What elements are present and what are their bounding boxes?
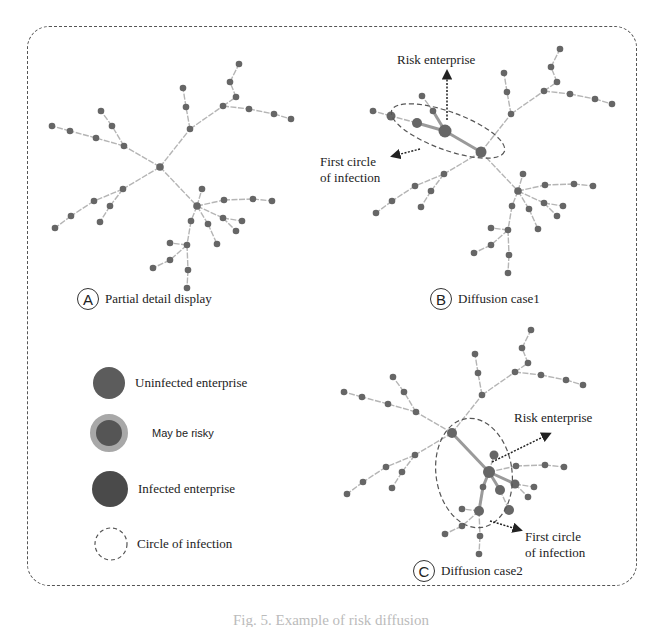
- enterprise-node: [501, 70, 508, 77]
- enterprise-node: [93, 135, 100, 142]
- edge: [508, 206, 512, 230]
- enterprise-node: [188, 218, 195, 225]
- enterprise-node: [359, 394, 366, 401]
- enterprise-node: [541, 200, 548, 207]
- enterprise-node: [476, 551, 483, 558]
- enterprise-node: [525, 360, 532, 367]
- legend-item-circle-of-infection: Circle of infection: [95, 528, 232, 560]
- legend-label-uninfected: Uninfected enterprise: [135, 375, 247, 391]
- panel-letter-c-icon: C: [413, 560, 435, 582]
- enterprise-node: [205, 221, 212, 228]
- risk-arrow-c: [492, 434, 549, 462]
- enterprise-node: [483, 466, 495, 478]
- enterprise-node: [199, 186, 206, 193]
- legend-item-uninfected: Uninfected enterprise: [93, 367, 247, 399]
- annotation-risk-enterprise-c: Risk enterprise: [514, 410, 592, 426]
- annotation-first-circle-b-line2: of infection: [320, 170, 380, 186]
- enterprise-node: [548, 64, 555, 71]
- enterprise-node: [479, 392, 486, 399]
- enterprise-node: [490, 451, 499, 460]
- enterprise-node: [220, 103, 227, 110]
- enterprise-node: [520, 171, 527, 178]
- enterprise-node: [541, 88, 548, 95]
- legend-label-infected: Infected enterprise: [138, 481, 235, 497]
- enterprise-node: [542, 182, 549, 189]
- enterprise-node: [269, 198, 276, 205]
- edge: [71, 201, 94, 216]
- edge: [124, 146, 160, 167]
- edge: [415, 433, 452, 455]
- edge: [190, 106, 223, 129]
- enterprise-node: [180, 85, 187, 92]
- circle-arrow-c: [490, 521, 520, 530]
- enterprise-node: [580, 382, 587, 389]
- legend-label-circle-of-infection: Circle of infection: [137, 536, 232, 552]
- edge: [518, 191, 544, 203]
- enterprise-node: [52, 225, 59, 232]
- enterprise-node: [184, 242, 191, 249]
- enterprise-node: [563, 377, 570, 384]
- enterprise-node: [441, 171, 448, 178]
- enterprise-node: [514, 187, 522, 195]
- enterprise-node: [560, 203, 567, 210]
- enterprise-node: [120, 186, 127, 193]
- edge: [224, 199, 253, 200]
- edge: [363, 467, 386, 482]
- edge: [170, 245, 187, 260]
- enterprise-node: [567, 91, 574, 98]
- edge: [386, 455, 415, 467]
- enterprise-node: [271, 111, 278, 118]
- enterprise-node: [542, 462, 549, 469]
- enterprise-node: [167, 240, 174, 247]
- enterprise-node: [389, 485, 396, 492]
- enterprise-node: [519, 345, 526, 352]
- enterprise-node: [185, 267, 192, 274]
- edge: [482, 372, 515, 395]
- enterprise-node: [413, 409, 420, 416]
- may-be-risky-node-icon: [90, 414, 128, 452]
- edge: [392, 186, 415, 201]
- enterprise-node: [419, 93, 426, 100]
- enterprise-node: [91, 198, 98, 205]
- circle-arrow-b: [393, 149, 420, 156]
- edge: [452, 433, 489, 472]
- enterprise-node: [399, 469, 406, 476]
- enterprise-node: [187, 126, 194, 133]
- network-panel-b: [370, 46, 616, 277]
- edge: [507, 92, 511, 114]
- enterprise-node: [474, 506, 484, 516]
- enterprise-node: [480, 484, 487, 491]
- enterprise-node: [233, 228, 240, 235]
- panel-title-a: Partial detail display: [105, 291, 212, 307]
- panel-title-b: Diffusion case1: [458, 291, 540, 307]
- enterprise-node: [214, 241, 221, 248]
- enterprise-node: [220, 215, 227, 222]
- edge: [416, 412, 452, 433]
- enterprise-node: [250, 196, 257, 203]
- edge: [518, 185, 545, 191]
- edge: [511, 91, 544, 114]
- enterprise-node: [513, 463, 520, 470]
- enterprise-node: [156, 163, 164, 171]
- enterprise-node: [554, 213, 561, 220]
- enterprise-node: [412, 118, 422, 128]
- enterprise-node: [428, 188, 435, 195]
- enterprise-node: [538, 372, 545, 379]
- edge: [123, 167, 160, 189]
- edge: [186, 107, 190, 129]
- edge: [197, 200, 224, 206]
- enterprise-node: [341, 389, 348, 396]
- panel-label-b: B Diffusion case1: [430, 288, 540, 310]
- enterprise-node: [526, 206, 533, 213]
- enterprise-node: [592, 96, 599, 103]
- enterprise-node: [447, 428, 457, 438]
- enterprise-node: [509, 203, 516, 210]
- edge: [160, 167, 197, 206]
- enterprise-node: [373, 210, 380, 217]
- legend-circle-spacer: [95, 528, 127, 560]
- enterprise-node: [442, 531, 449, 538]
- enterprise-node: [360, 479, 367, 486]
- edge: [94, 189, 123, 201]
- enterprise-node: [246, 106, 253, 113]
- enterprise-node: [554, 79, 561, 86]
